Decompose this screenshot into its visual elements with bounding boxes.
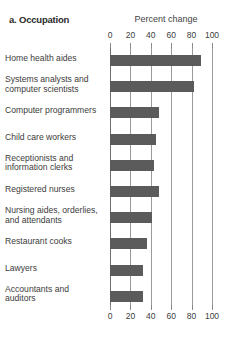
x-tick-mark [192,305,193,310]
chart-row: Lawyers [0,259,242,285]
chart-row: Restaurant cooks [0,232,242,258]
x-tick-label: 80 [187,30,196,41]
category-label: Home health aides [5,54,105,64]
category-label-line1: Registered nurses [5,184,75,194]
plot-area: Home health aidesSystems analysts andcom… [0,48,242,310]
category-label-line2: and attendants [5,216,105,226]
bar [110,265,143,276]
chart-row: Computer programmers [0,101,242,127]
category-label-line1: Systems analysts and [5,74,89,84]
category-label: Restaurant cooks [5,237,105,247]
chart-row: Home health aides [0,49,242,75]
x-tick-label: 60 [166,311,175,322]
x-axis-title: Percent change [110,14,222,24]
category-label: Registered nurses [5,185,105,195]
x-tick-label: 100 [205,30,219,41]
occupation-bar-chart: a. Occupation Percent change 02040608010… [0,0,242,342]
category-label-line1: Child care workers [5,132,76,142]
category-label-line1: Computer programmers [5,105,96,115]
category-label-line1: Restaurant cooks [5,236,72,246]
x-axis-tickmarks-bottom [0,305,242,310]
bar [110,107,159,118]
bar [110,134,156,145]
x-tick-mark [151,305,152,310]
category-label-line1: Nursing aides, orderlies, [5,205,98,215]
category-label-line2: computer scientists [5,85,105,95]
x-tick-label: 40 [146,30,155,41]
category-label: Receptionists andinformation clerks [5,154,105,173]
x-tick-mark [110,305,111,310]
bar [110,160,154,171]
page-title: a. Occupation [9,14,69,25]
x-tick-label: 0 [108,311,113,322]
chart-row: Registered nurses [0,180,242,206]
chart-row: Systems analysts andcomputer scientists [0,75,242,101]
x-tick-label: 60 [166,30,175,41]
x-tick-label: 20 [126,30,135,41]
x-axis-ticklabels-top: 020406080100 [0,30,242,41]
category-label: Nursing aides, orderlies,and attendants [5,206,105,225]
chart-row: Receptionists andinformation clerks [0,154,242,180]
bar [110,81,194,92]
category-label: Computer programmers [5,106,105,116]
category-label-line2: information clerks [5,163,105,173]
bar [110,291,143,302]
chart-row: Child care workers [0,128,242,154]
bar [110,212,152,223]
x-tick-mark [171,305,172,310]
category-label-line1: Lawyers [5,263,37,273]
category-label: Accountants andauditors [5,285,105,304]
category-label-line1: Receptionists and [5,153,73,163]
x-tick-label: 40 [146,311,155,322]
category-label: Lawyers [5,264,105,274]
category-label-line2: auditors [5,294,105,304]
category-label: Systems analysts andcomputer scientists [5,75,105,94]
category-label-line1: Home health aides [5,53,77,63]
x-axis-ticklabels-bottom: 020406080100 [0,311,242,322]
x-tick-label: 20 [126,311,135,322]
bar [110,186,159,197]
chart-row: Nursing aides, orderlies,and attendants [0,206,242,232]
category-label-line1: Accountants and [5,284,69,294]
x-tick-label: 0 [108,30,113,41]
x-tick-label: 100 [205,311,219,322]
x-tick-label: 80 [187,311,196,322]
bar [110,238,147,249]
x-tick-mark [130,305,131,310]
x-tick-mark [212,305,213,310]
category-label: Child care workers [5,133,105,143]
bar [110,55,201,66]
